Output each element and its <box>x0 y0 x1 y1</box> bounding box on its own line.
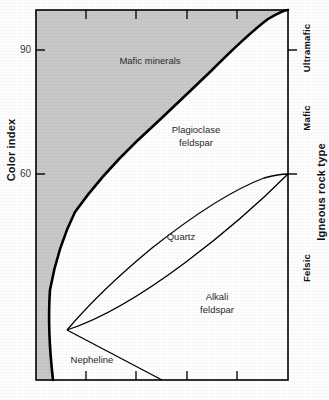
region-label-mafic-minerals: Mafic minerals <box>119 55 180 66</box>
region-label-nepheline: Nepheline <box>71 354 114 365</box>
igneous-rock-composition-diagram: 90 60 Color index Ultramafic Mafic Felsi… <box>0 0 329 400</box>
region-label-plagioclase-line1: Plagioclase <box>172 124 221 135</box>
right-axis-title: Igneous rock type <box>315 143 327 241</box>
region-label-plagioclase-line2: feldspar <box>179 137 213 148</box>
region-label-quartz: Quartz <box>167 231 196 242</box>
region-label-alkali-line2: feldspar <box>200 304 234 315</box>
y-axis-title: Color index <box>5 118 17 181</box>
category-label-felsic: Felsic <box>301 254 312 282</box>
y-tick-label-90: 90 <box>20 44 32 55</box>
y-tick-label-60: 60 <box>20 168 32 179</box>
category-label-ultramafic: Ultramafic <box>301 24 312 72</box>
category-label-mafic: Mafic <box>301 105 312 130</box>
region-label-alkali-line1: Alkali <box>206 291 229 302</box>
